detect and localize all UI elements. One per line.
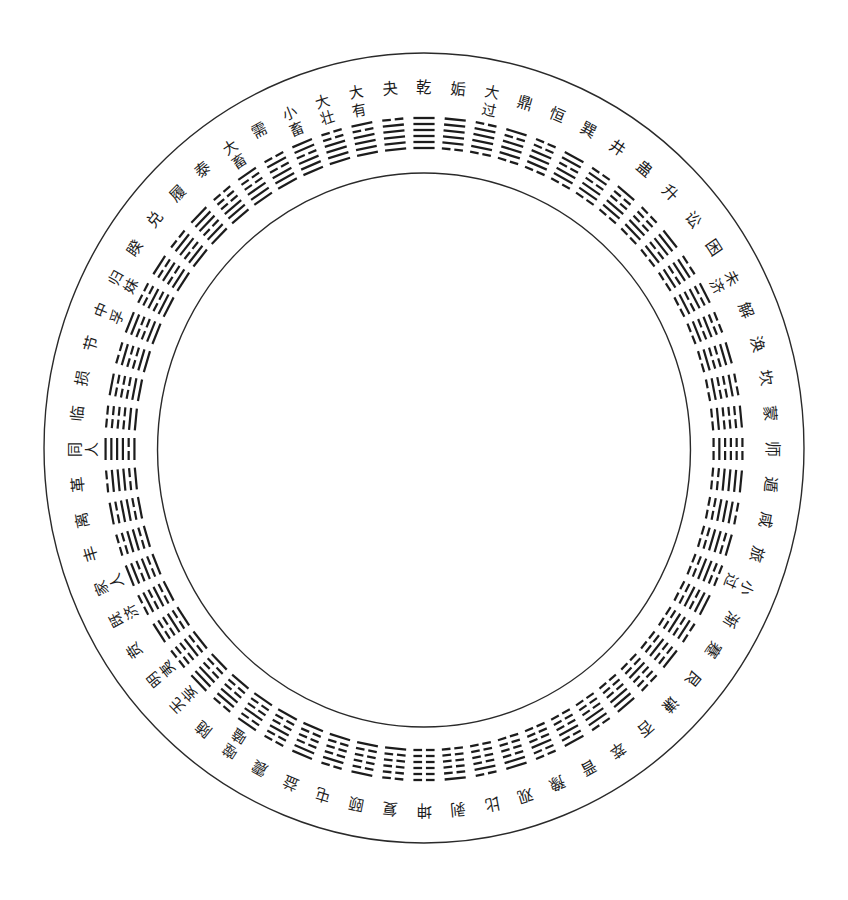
yin-line-right-segment <box>413 755 422 757</box>
hexagram-label-char: 同 <box>66 441 83 456</box>
yin-line-left-segment <box>426 761 435 763</box>
yin-line-left-segment <box>426 749 435 751</box>
yin-line-left-segment <box>730 438 732 447</box>
yang-line <box>122 438 124 460</box>
yang-line <box>110 438 112 460</box>
yin-line-right-segment <box>413 779 422 781</box>
yin-line-right-segment <box>730 451 732 460</box>
yin-line-left-segment <box>741 438 743 447</box>
hexagram-label-char: 人 <box>83 441 100 456</box>
yin-line-left-segment <box>724 438 726 447</box>
hexagram-label: 临 <box>67 404 87 422</box>
yang-line <box>413 147 434 149</box>
hexagram-label-char: 夬 <box>381 78 398 99</box>
hexagram-label-char: 临 <box>67 404 87 422</box>
hexagram-label: 同人 <box>66 441 100 456</box>
yang-line <box>116 438 118 460</box>
yin-line-right-segment <box>724 451 726 460</box>
yin-line-right-segment <box>413 749 422 751</box>
yin-line-right-segment <box>413 761 422 763</box>
hexagram-label: 姤 <box>449 78 466 99</box>
hexagram-label-char: 复 <box>381 799 398 820</box>
hexagram-label-char: 蒙 <box>761 404 781 422</box>
yang-line <box>413 135 434 137</box>
hexagram-label: 剥 <box>449 799 466 820</box>
hexagram-label-char: 姤 <box>449 78 466 99</box>
yin-line-right-segment <box>736 451 738 460</box>
hexagram-label: 蒙 <box>761 404 781 422</box>
yin-line-left-segment <box>736 438 738 447</box>
hexagram-label: 坤 <box>416 801 432 820</box>
hexagram-label: 复 <box>381 799 398 820</box>
yin-line-right-segment <box>413 773 422 775</box>
yin-line-right-segment <box>741 451 743 460</box>
hexagram-label-char: 革 <box>67 475 87 493</box>
hexagram-label: 乾 <box>416 77 432 96</box>
yang-line <box>104 438 106 460</box>
yin-line-right-segment <box>128 438 130 447</box>
yin-line-left-segment <box>426 779 435 781</box>
hexagram-label-char: 剥 <box>449 799 466 820</box>
yin-line-left-segment <box>426 755 435 757</box>
hexagram-label: 夬 <box>381 78 398 99</box>
hexagram-label: 遁 <box>761 475 781 493</box>
yang-line <box>413 117 434 119</box>
hexagram-label: 革 <box>67 475 87 493</box>
hexagram-label: 师 <box>763 441 782 457</box>
yang-line <box>413 129 434 131</box>
fuxi-hexagram-circle-diagram: 乾姤大过鼎恒巽井蛊升讼困未济解涣坎蒙师遁咸旅小过渐蹇艮谦否萃晋豫观比剥坤复颐屯益… <box>0 0 848 900</box>
yin-line-right-segment <box>712 451 714 460</box>
yin-line-left-segment <box>712 438 714 447</box>
yang-line <box>413 141 434 143</box>
yin-line-left-segment <box>128 451 130 460</box>
yin-line-right-segment <box>413 767 422 769</box>
yin-line-left-segment <box>426 773 435 775</box>
hexagram-label-char: 遁 <box>761 475 781 493</box>
hexagram-label-char: 乾 <box>416 77 432 96</box>
hexagram-label-char: 师 <box>763 441 782 457</box>
yang-line <box>133 438 135 460</box>
yang-line <box>413 123 434 125</box>
hexagram-label-char: 坤 <box>416 801 432 820</box>
yin-line-left-segment <box>426 767 435 769</box>
yang-line <box>718 438 720 460</box>
